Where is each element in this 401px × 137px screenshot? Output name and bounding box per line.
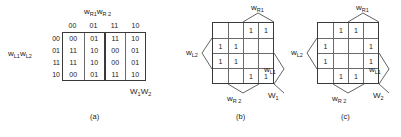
table-cell: 00 — [63, 33, 84, 45]
table-cell: 00 — [104, 57, 125, 69]
panel-c-right-label: wL1 — [369, 66, 381, 74]
table-cell: 01 — [125, 45, 146, 57]
row-header: 11 — [42, 57, 60, 69]
panel-a-caption: (a) — [90, 112, 99, 121]
table-cell: 10 — [84, 57, 105, 69]
table-cell: 10 — [125, 33, 146, 45]
panel-a-output-variable-label: W1W2 — [130, 88, 151, 96]
table-cell: 00 — [63, 68, 84, 80]
row-header: 01 — [42, 44, 60, 56]
panel-b-caption: (b) — [236, 112, 245, 121]
panel-c-left-label: wL2 — [291, 49, 303, 57]
panel-b-top-label: wR1 — [251, 4, 264, 12]
panel-a-top-variable-label: wR1wR 2 — [84, 8, 111, 16]
table-cell: 11 — [63, 45, 84, 57]
table-cell: 11 — [63, 57, 84, 69]
panel-b-left-label: wL2 — [186, 49, 198, 57]
row-header: 10 — [42, 69, 60, 81]
table-cell: 01 — [125, 57, 146, 69]
row-header: 00 — [42, 32, 60, 44]
table-cell: 01 — [84, 68, 105, 80]
table-cell: 10 — [125, 68, 146, 80]
panel-a-table: 00 01 11 10 11 10 00 01 11 10 00 01 00 0… — [62, 32, 146, 81]
panel-c-top-label: wR1 — [356, 4, 369, 12]
table-cell: 00 — [104, 45, 125, 57]
column-header: 11 — [104, 20, 125, 31]
panel-c-bottom-label: wR 2 — [332, 95, 346, 103]
table-cell: 10 — [84, 45, 105, 57]
panel-c-kmap: 1 1 1 1 1 1 1 1 wR1 wR 2 wL2 wL1 W2 (c) — [291, 0, 399, 137]
table-cell: 11 — [104, 33, 125, 45]
column-header: 01 — [83, 20, 104, 31]
column-header: 00 — [62, 20, 83, 31]
table-cell: 11 — [104, 68, 125, 80]
panel-c-caption: (c) — [341, 112, 350, 121]
panel-a-column-headers: 00 01 11 10 — [62, 20, 146, 31]
table-cell: 01 — [84, 33, 105, 45]
panel-b-output-label: W1 — [268, 92, 279, 100]
panel-a-transition-table: wR1wR 2 00 01 11 10 wL1wL2 00 01 11 10 0… — [0, 0, 186, 137]
panel-b-bottom-label: wR 2 — [227, 95, 241, 103]
panel-c-output-label: W2 — [373, 92, 384, 100]
column-header: 10 — [125, 20, 146, 31]
panel-a-row-headers: 00 01 11 10 — [42, 32, 60, 81]
panel-b-right-label: wL1 — [264, 66, 276, 74]
panel-a-left-variable-label: wL1wL2 — [8, 50, 32, 58]
panel-b-kmap: 1 1 1 1 1 1 1 1 wR1 wR 2 wL2 wL1 W1 — [186, 0, 294, 137]
